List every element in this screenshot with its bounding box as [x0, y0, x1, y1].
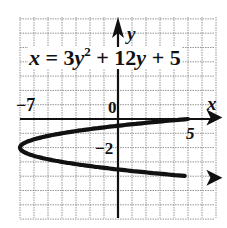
- equation-label: x = 3y2 + 12y + 5: [28, 47, 182, 69]
- tick-label-y-neg2: −2: [95, 140, 113, 157]
- tick-label-x-neg7: −7: [16, 96, 35, 114]
- arrowhead-icon: [206, 170, 222, 186]
- tick-label-x-5: 5: [186, 125, 195, 142]
- tick-label-origin: 0: [108, 99, 117, 116]
- x-axis-label: x: [207, 94, 217, 113]
- y-axis-label: y: [127, 24, 135, 43]
